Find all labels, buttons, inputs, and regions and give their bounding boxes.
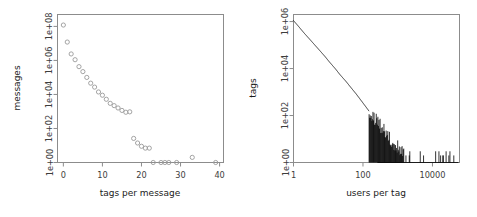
left-x-tick-label: 0	[61, 170, 66, 180]
right-noise-band	[369, 112, 459, 163]
left-y-tick-label: 1e+02	[45, 115, 55, 143]
left-x-axis-title: tags per message	[100, 188, 181, 198]
data-point	[77, 65, 81, 69]
data-point	[116, 106, 120, 110]
left-panel: 1e+001e+021e+041e+061e+08 010203040 tags…	[12, 13, 225, 198]
left-data-points	[61, 23, 218, 165]
right-panel: 1e+001e+021e+041e+06 110010000 users per…	[248, 8, 460, 198]
data-point	[104, 97, 108, 101]
figure-canvas: 1e+001e+021e+041e+061e+08 010203040 tags…	[0, 0, 477, 217]
data-point	[85, 75, 89, 79]
right-y-axis-tick-labels: 1e+001e+021e+041e+06	[281, 8, 291, 176]
left-x-tick-label: 40	[214, 170, 224, 180]
data-point	[96, 90, 100, 94]
left-x-tick-label: 20	[136, 170, 146, 180]
left-x-axis-ticks	[63, 163, 219, 167]
data-point	[132, 136, 136, 140]
left-x-axis-tick-labels: 010203040	[61, 170, 225, 180]
left-y-axis-tick-labels: 1e+001e+021e+041e+061e+08	[45, 13, 55, 177]
right-x-axis-tick-labels: 110010000	[291, 170, 446, 180]
right-data-curve	[294, 21, 369, 111]
data-point	[93, 85, 97, 89]
left-x-tick-label: 30	[175, 170, 185, 180]
right-x-tick-label: 10000	[419, 170, 445, 180]
right-y-tick-label: 1e+00	[281, 149, 291, 177]
two-panel-plot: 1e+001e+021e+041e+061e+08 010203040 tags…	[0, 0, 477, 217]
data-point	[81, 70, 85, 74]
left-y-tick-label: 1e+06	[45, 47, 55, 75]
data-point	[65, 40, 69, 44]
right-y-tick-label: 1e+04	[281, 55, 291, 83]
left-y-axis-title: messages	[12, 65, 22, 110]
data-point	[89, 81, 93, 85]
data-point	[61, 23, 65, 27]
left-y-tick-label: 1e+04	[45, 81, 55, 109]
right-x-tick-label: 100	[355, 170, 371, 180]
right-y-axis-title: tags	[248, 78, 258, 98]
data-point	[108, 101, 112, 105]
right-y-tick-label: 1e+02	[281, 102, 291, 130]
right-y-axis-ticks	[290, 22, 294, 163]
data-point	[135, 141, 139, 145]
data-point	[112, 104, 116, 108]
data-point	[190, 155, 194, 159]
right-x-axis-ticks	[294, 163, 433, 167]
left-x-tick-label: 10	[97, 170, 107, 180]
left-y-tick-label: 1e+00	[45, 149, 55, 177]
right-x-tick-label: 1	[291, 170, 296, 180]
data-point	[100, 93, 104, 97]
data-point	[73, 58, 77, 62]
right-y-tick-label: 1e+06	[281, 8, 291, 36]
left-y-tick-label: 1e+08	[45, 13, 55, 41]
data-point	[69, 52, 73, 56]
left-panel-frame	[58, 15, 224, 163]
right-x-axis-title: users per tag	[346, 188, 406, 198]
